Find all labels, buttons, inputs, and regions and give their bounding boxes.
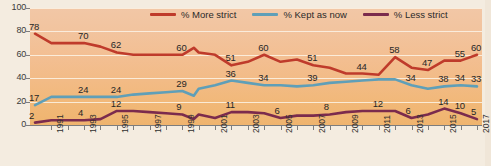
- less-strict-label: 6: [406, 105, 411, 116]
- x-tick-mark: [100, 126, 101, 130]
- x-tick-mark: [412, 126, 413, 130]
- more-strict-label: 44: [356, 61, 366, 72]
- x-tick-mark: [428, 126, 429, 130]
- x-tick-mark: [117, 126, 118, 130]
- x-tick-label: 1991: [55, 114, 65, 133]
- kept-as-now-label: 29: [176, 78, 186, 89]
- kept-as-now-label: 34: [455, 72, 465, 83]
- kept-as-now-label: 24: [78, 84, 88, 95]
- legend-item: % Less strict: [363, 9, 448, 20]
- more-strict-label: 51: [225, 52, 235, 63]
- x-tick-mark: [444, 126, 445, 130]
- x-tick-label: 2007: [317, 114, 327, 133]
- y-tick-label: 0: [2, 119, 26, 129]
- kept-as-now-label: 33: [471, 73, 481, 84]
- more-strict-label: 62: [111, 39, 121, 50]
- x-tick-mark: [313, 126, 314, 130]
- x-tick-label: 1995: [120, 114, 130, 133]
- series-line: [35, 79, 477, 105]
- more-strict-label: 60: [471, 42, 481, 53]
- x-tick-label: 2003: [251, 114, 261, 133]
- x-tick-mark: [166, 126, 167, 130]
- x-tick-label: 2009: [350, 114, 360, 133]
- less-strict-label: 2: [29, 110, 34, 121]
- x-tick-mark: [215, 126, 216, 130]
- x-tick-mark: [199, 126, 200, 130]
- x-tick-mark: [330, 126, 331, 130]
- x-tick-mark: [133, 126, 134, 130]
- x-tick-label: 2011: [382, 115, 392, 133]
- y-tick-label: 20: [2, 96, 26, 106]
- x-tick-mark: [264, 126, 265, 130]
- legend-item: % Kept as now: [252, 9, 346, 20]
- less-strict-label: 11: [225, 99, 234, 110]
- x-tick-label: 1997: [153, 114, 163, 133]
- legend-swatch: [252, 13, 278, 16]
- more-strict-label: 60: [176, 42, 186, 53]
- x-tick-label: 2005: [284, 114, 294, 133]
- legend-label: % Less strict: [394, 9, 448, 20]
- x-tick-label: 2015: [448, 114, 458, 133]
- kept-as-now-label: 24: [111, 84, 121, 95]
- x-tick-mark: [248, 126, 249, 130]
- x-tick-label: 2001: [219, 114, 229, 133]
- less-strict-label: 4: [78, 107, 83, 118]
- y-tick-label: 40: [2, 72, 26, 82]
- x-tick-mark: [281, 126, 282, 130]
- x-tick-mark: [379, 126, 380, 130]
- more-strict-label: 58: [389, 44, 399, 55]
- kept-as-now-label: 36: [225, 68, 235, 79]
- y-tick-label: 80: [2, 25, 26, 35]
- kept-as-now-label: 17: [29, 92, 39, 103]
- kept-as-now-label: 38: [438, 73, 448, 84]
- legend-label: % More strict: [181, 9, 236, 20]
- more-strict-label: 70: [78, 30, 88, 41]
- kept-as-now-label: 34: [258, 72, 268, 83]
- less-strict-label: 10: [455, 100, 465, 111]
- legend-item: % More strict: [150, 9, 236, 20]
- less-strict-label: 12: [111, 98, 121, 109]
- series-line: [35, 34, 477, 75]
- x-tick-mark: [461, 126, 462, 130]
- more-strict-label: 51: [307, 52, 317, 63]
- chart-legend: % More strict% Kept as now% Less strict: [150, 9, 448, 20]
- x-tick-mark: [51, 126, 52, 130]
- x-tick-mark: [362, 126, 363, 130]
- more-strict-label: 60: [258, 42, 268, 53]
- legend-label: % Kept as now: [283, 9, 346, 20]
- x-tick-mark: [68, 126, 69, 130]
- less-strict-label: 8: [324, 101, 329, 112]
- y-axis: 020406080100: [0, 0, 26, 166]
- less-strict-label: 12: [373, 98, 383, 109]
- less-strict-label: 9: [176, 101, 181, 112]
- series-lines: [30, 8, 482, 125]
- x-tick-mark: [150, 126, 151, 130]
- less-strict-label: 6: [275, 105, 280, 116]
- more-strict-label: 78: [29, 21, 39, 32]
- x-tick-label: 1999: [186, 114, 196, 133]
- y-tick-label: 60: [2, 49, 26, 59]
- y-tick-label: 100: [2, 2, 26, 12]
- more-strict-label: 55: [455, 48, 465, 59]
- x-tick-mark: [84, 126, 85, 130]
- x-tick-mark: [395, 126, 396, 130]
- kept-as-now-label: 39: [307, 72, 317, 83]
- x-tick-mark: [477, 126, 478, 130]
- x-tick-mark: [231, 126, 232, 130]
- x-tick-mark: [297, 126, 298, 130]
- legend-swatch: [363, 13, 389, 16]
- less-strict-label: 5: [471, 106, 476, 117]
- x-tick-mark: [346, 126, 347, 130]
- x-tick-mark: [182, 126, 183, 130]
- kept-as-now-label: 34: [406, 72, 416, 83]
- legend-swatch: [150, 13, 176, 16]
- x-tick-label: 1993: [88, 114, 98, 133]
- x-tick-label: 2017: [481, 114, 491, 133]
- more-strict-label: 47: [422, 57, 432, 68]
- plot-area: 7870626051605144584755601724242936343934…: [30, 8, 482, 125]
- less-strict-label: 14: [438, 96, 448, 107]
- x-tick-label: 2013: [415, 114, 425, 133]
